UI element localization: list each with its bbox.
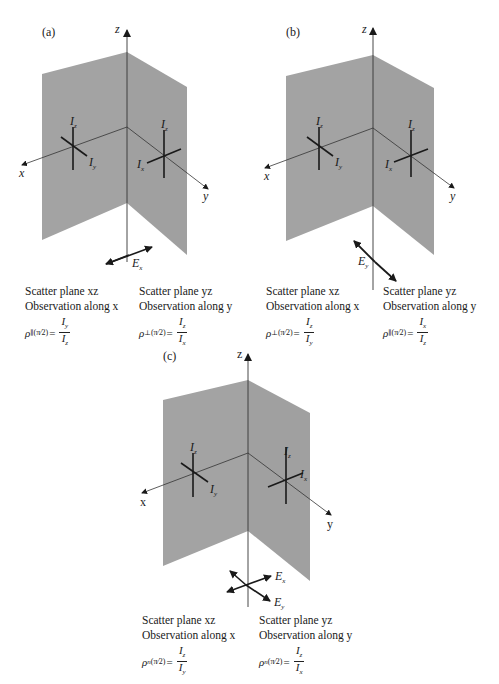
- panel-a-plane-xz: [42, 52, 127, 240]
- panel-a-formula-xz: ρ∥(π⁄2)= IyIz: [25, 316, 70, 349]
- panel-a-plane-yz: [127, 52, 187, 255]
- caption-scatter-plane: Scatter plane yz: [383, 284, 476, 299]
- panel-a-caption-xz: Scatter plane xz Observation along x: [25, 284, 118, 314]
- panel-c-field-arrow-ey: [246, 585, 270, 601]
- panel-a-formula-yz: ρ⊥(π⁄2)= IzIx: [139, 316, 188, 349]
- panel-c-caption-xz: Scatter plane xz Observation along x: [142, 613, 235, 643]
- panel-a-left-iz-label: Iz: [70, 114, 77, 133]
- panel-a-y-label: y: [203, 189, 208, 203]
- panel-c-ex-label: Ex: [275, 569, 285, 588]
- panel-a-x-label: x: [19, 166, 24, 180]
- panel-c-y-label: y: [327, 517, 333, 531]
- panel-b-left-iy-label: Iy: [335, 155, 342, 174]
- panel-b-diagram: [265, 28, 454, 290]
- panel-a-caption-yz: Scatter plane yz Observation along y: [139, 284, 232, 314]
- caption-scatter-plane: Scatter plane yz: [139, 284, 232, 299]
- panel-b-field-arrow-ey: [375, 262, 396, 281]
- panel-c-formula-xz: ρn(π⁄2)= IzIy: [142, 645, 187, 678]
- panel-c-left-iy-label: Iy: [210, 482, 217, 501]
- panel-b-caption-xz: Scatter plane xz Observation along x: [266, 284, 359, 314]
- panel-c-field-arrow-ex: [246, 576, 271, 585]
- panel-c-formula-yz: ρn(π⁄2)= IzIx: [259, 645, 304, 678]
- panel-b-z-label: z: [362, 22, 367, 36]
- panel-b-formula-xz: ρ⊥(π⁄2)= IzIy: [266, 316, 315, 349]
- panel-b-caption-yz: Scatter plane yz Observation along y: [383, 284, 476, 314]
- caption-observation: Observation along y: [383, 299, 476, 314]
- caption-observation: Observation along x: [142, 628, 235, 643]
- panel-a-tag: (a): [42, 25, 55, 40]
- panel-b-plane-yz: [373, 55, 434, 255]
- panel-b-right-iz-label: Iz: [408, 117, 415, 136]
- caption-scatter-plane: Scatter plane yz: [259, 613, 352, 628]
- panel-c-z-label: z: [237, 347, 242, 361]
- panel-c-right-ix-label: Ix: [300, 467, 307, 486]
- panel-a-right-iz-label: Iz: [161, 117, 168, 136]
- panel-a-right-ix-label: Ix: [137, 157, 144, 176]
- panel-a-left-iy-label: Iy: [89, 155, 96, 174]
- caption-scatter-plane: Scatter plane xz: [25, 284, 118, 299]
- panel-c-right-iz-label: Iz: [284, 444, 291, 463]
- panel-b-right-ix-label: Ix: [385, 157, 392, 176]
- panel-a-z-label: z: [115, 22, 120, 36]
- panel-c-left-iz-label: Iz: [190, 440, 197, 459]
- panel-b-plane-xz: [286, 55, 373, 241]
- panel-c-tag: (c): [163, 349, 176, 364]
- panel-b-left-iz-label: Iz: [316, 114, 323, 133]
- caption-scatter-plane: Scatter plane xz: [142, 613, 235, 628]
- caption-observation: Observation along x: [25, 299, 118, 314]
- panel-c-ey-label: Ey: [274, 595, 284, 614]
- panel-b-tag: (b): [286, 25, 300, 40]
- caption-scatter-plane: Scatter plane xz: [266, 284, 359, 299]
- panel-b-y-label: y: [450, 189, 455, 203]
- panel-c-plane-xz: [163, 380, 248, 566]
- caption-observation: Observation along y: [259, 628, 352, 643]
- caption-observation: Observation along y: [139, 299, 232, 314]
- panel-b-ey-label: Ey: [358, 254, 368, 273]
- panel-b-x-label: x: [264, 169, 269, 183]
- panel-c-caption-yz: Scatter plane yz Observation along y: [259, 613, 352, 643]
- caption-observation: Observation along x: [266, 299, 359, 314]
- panel-c-x-label: x: [140, 495, 146, 509]
- panel-a-diagram: [22, 30, 208, 264]
- panel-a-ex-label: Ex: [132, 256, 142, 275]
- panel-b-formula-yz: ρ∥(π⁄2)= IxIz: [383, 316, 428, 349]
